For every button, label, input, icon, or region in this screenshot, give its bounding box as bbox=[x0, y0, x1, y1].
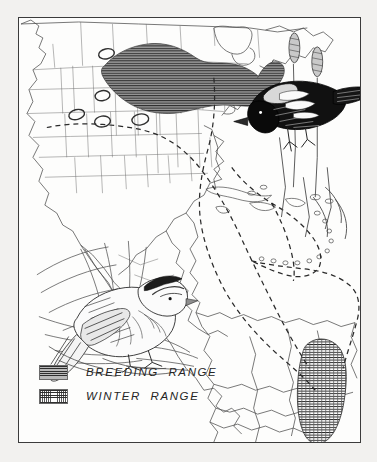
legend-row-breeding: BREEDING RANGE bbox=[39, 360, 239, 384]
range-legend: BREEDING RANGE WINTER RANGE bbox=[39, 360, 239, 408]
caribbean-islands bbox=[206, 185, 333, 265]
winter-range-south-america bbox=[297, 339, 346, 442]
breeding-range-label: BREEDING RANGE bbox=[86, 366, 217, 378]
winter-range-label: WINTER RANGE bbox=[86, 390, 199, 402]
winter-range-swatch bbox=[39, 389, 68, 404]
plate-frame: BREEDING RANGE WINTER RANGE bbox=[18, 17, 361, 443]
legend-row-winter: WINTER RANGE bbox=[39, 384, 239, 408]
illustration-plate: BREEDING RANGE WINTER RANGE bbox=[0, 0, 377, 462]
migration-route-eastern bbox=[272, 203, 295, 281]
male-bobolink-illustration bbox=[234, 33, 360, 239]
breeding-range-swatch bbox=[39, 365, 68, 380]
